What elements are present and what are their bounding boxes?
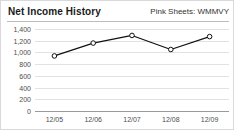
y-axis-tick-label: 600 <box>19 73 31 80</box>
x-axis-tick-label: 12/07 <box>123 116 141 123</box>
y-axis-tick-label: 1,000 <box>13 49 31 56</box>
y-axis-tick-label: 400 <box>19 85 31 92</box>
header-divider <box>7 21 229 22</box>
y-axis-tick-label: 800 <box>19 61 31 68</box>
data-point-marker <box>91 41 96 46</box>
data-point-marker <box>130 33 135 38</box>
y-axis-tick-labels: 1,4001,2001,0008006004002000 <box>13 26 31 115</box>
x-axis-tick-label: 12/06 <box>84 116 102 123</box>
widget-header: Net Income History Pink Sheets: WMMVY <box>1 1 234 22</box>
x-axis-tick-label: 12/09 <box>201 116 219 123</box>
x-axis-tick-label: 12/08 <box>162 116 180 123</box>
x-axis-tick-label: 12/05 <box>46 116 64 123</box>
chart-plot-area: 1,4001,2001,0008006004002000 12/0512/061… <box>1 23 234 130</box>
y-axis-tick-label: 1,400 <box>13 26 31 33</box>
data-point-marker <box>52 54 57 59</box>
y-axis-tick-label: 200 <box>19 96 31 103</box>
ticker-symbol-label: Pink Sheets: WMMVY <box>150 7 229 16</box>
data-point-marker <box>169 47 174 52</box>
y-axis-tick-label: 0 <box>27 108 31 115</box>
y-axis-tick-label: 1,200 <box>13 38 31 45</box>
page-title: Net Income History <box>8 6 101 17</box>
data-point-marker <box>207 34 212 39</box>
x-axis-tick-labels: 12/0512/0612/0712/0812/09 <box>46 116 219 123</box>
line-chart-svg: 1,4001,2001,0008006004002000 12/0512/061… <box>1 23 234 130</box>
net-income-history-widget: Net Income History Pink Sheets: WMMVY 1,… <box>0 0 234 130</box>
data-point-markers <box>52 33 212 58</box>
